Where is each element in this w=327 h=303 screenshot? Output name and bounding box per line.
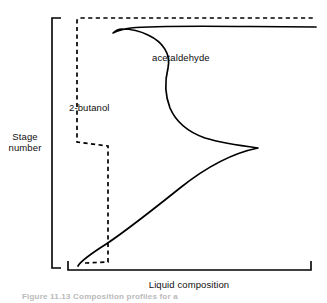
plot-canvas xyxy=(0,0,327,303)
figure-caption: Figure 11.13 Composition profiles for a xyxy=(22,292,312,301)
series-label-acetaldehyde: acetaldehyde xyxy=(152,52,210,63)
x-axis-label: Liquid composition xyxy=(117,279,261,290)
y-axis-bracket xyxy=(52,18,61,268)
y-axis-label: Stage number xyxy=(2,131,48,153)
series-label-2-butanol: 2-butanol xyxy=(69,102,110,113)
figure-composition-profiles: Stage number Liquid composition acetalde… xyxy=(0,0,327,303)
x-axis-bracket xyxy=(68,261,311,270)
